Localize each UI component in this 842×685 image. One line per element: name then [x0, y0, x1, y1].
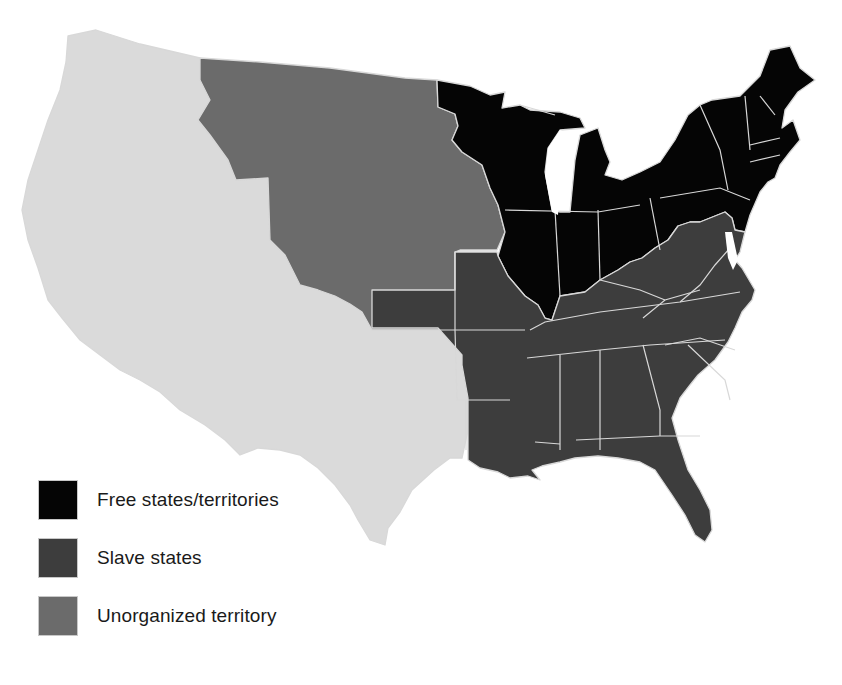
legend-label-unorganized: Unorganized territory [97, 605, 277, 627]
legend-swatch-free [38, 480, 78, 520]
legend-label-slave: Slave states [97, 547, 202, 569]
legend-swatch-slave [38, 538, 78, 578]
legend-label-free: Free states/territories [97, 489, 279, 511]
legend-item-free: Free states/territories [38, 480, 279, 520]
legend-item-slave: Slave states [38, 538, 279, 578]
legend-item-unorganized: Unorganized territory [38, 596, 279, 636]
legend-swatch-unorganized [38, 596, 78, 636]
legend: Free states/territories Slave states Uno… [38, 480, 279, 654]
